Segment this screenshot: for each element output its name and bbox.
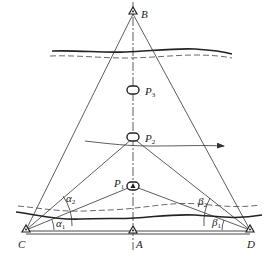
sightline-c-p1 [26, 186, 133, 230]
lower-river-bank-dashed [18, 203, 260, 211]
angle-arc-alpha1 [52, 220, 54, 230]
float-marker-p1 [127, 182, 139, 190]
label-alpha2: α2 [66, 192, 76, 206]
float-marker-p3 [127, 86, 139, 94]
sightline-b-c [26, 14, 133, 230]
sightline-d-p1 [133, 186, 250, 230]
label-p2: P2 [144, 132, 156, 146]
survey-diagram: B C A D P3 P2 P1 α2 α1 β2 β1 [0, 0, 278, 266]
label-p3: P3 [144, 85, 156, 99]
label-beta1: β1 [211, 216, 221, 230]
label-b: B [141, 8, 148, 20]
float-marker-p2 [127, 133, 139, 141]
label-d: D [246, 238, 255, 250]
sightline-b-d [133, 14, 250, 230]
station-b-triangle-icon [129, 7, 137, 14]
top-river-bank-dashed [50, 55, 232, 58]
top-river-bank-solid [52, 49, 232, 54]
station-a-triangle-icon [129, 226, 137, 233]
label-c: C [18, 238, 26, 250]
label-p1: P1 [113, 177, 125, 191]
label-a: A [135, 238, 143, 250]
angle-arc-beta1 [222, 220, 224, 230]
station-d-triangle-icon [246, 225, 254, 232]
label-beta2: β2 [197, 195, 207, 209]
lower-river-bank-solid [16, 212, 262, 219]
